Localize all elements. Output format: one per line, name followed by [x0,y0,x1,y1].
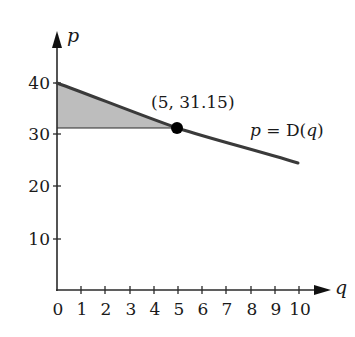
svg-text:20: 20 [28,176,50,196]
svg-text:2: 2 [101,299,112,319]
x-tick-labels: 0 1 2 3 4 5 6 7 8 9 10 [53,299,311,319]
x-axis-label: q [335,276,347,298]
point-label: (5, 31.15) [151,92,235,112]
svg-text:1: 1 [77,299,88,319]
demand-curve-chart: 40 30 20 10 0 1 2 3 4 5 6 7 8 9 10 p q (… [0,0,355,337]
curve-label: p = D(q) [250,120,324,140]
y-tick-labels: 40 30 20 10 [28,73,50,249]
svg-text:10: 10 [289,299,311,319]
svg-text:4: 4 [150,299,161,319]
equilibrium-point [171,122,183,134]
x-axis-arrow-icon [314,285,331,295]
y-axis-arrow-icon [52,31,62,48]
svg-text:6: 6 [198,299,209,319]
svg-text:8: 8 [247,299,258,319]
svg-text:5: 5 [174,299,185,319]
svg-text:30: 30 [28,124,50,144]
svg-text:9: 9 [271,299,282,319]
svg-text:7: 7 [222,299,233,319]
y-axis-label: p [67,24,79,46]
svg-text:40: 40 [28,73,50,93]
svg-text:3: 3 [126,299,137,319]
svg-text:0: 0 [53,299,64,319]
svg-text:10: 10 [28,229,50,249]
